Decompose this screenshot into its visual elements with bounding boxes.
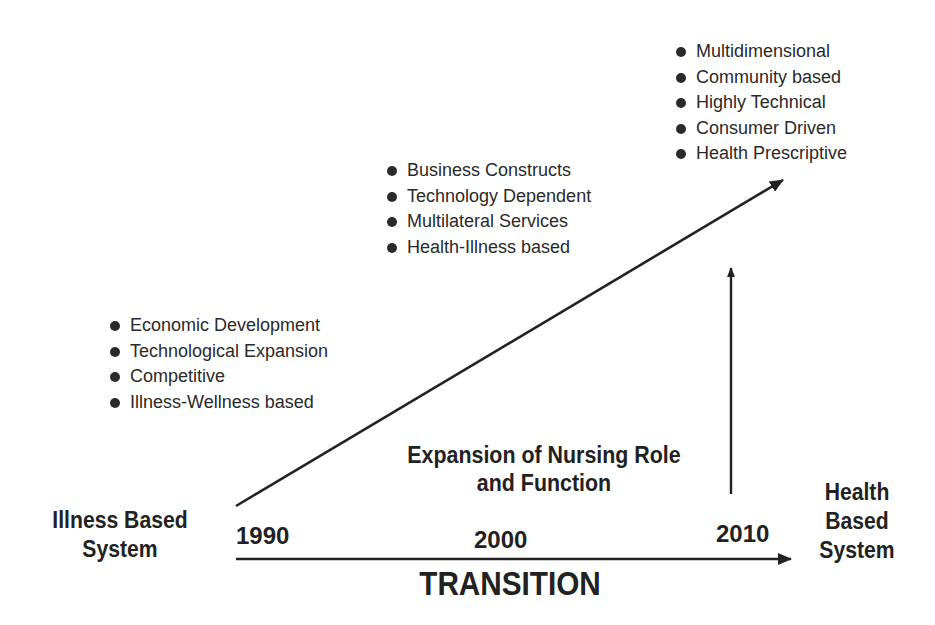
stage-2000-item: Multilateral Services <box>384 209 591 235</box>
start-label-line: System <box>30 535 210 564</box>
stage-2010-item: Multidimensional <box>673 39 847 65</box>
stage-1990-item: Technological Expansion <box>107 339 328 365</box>
stage-2010-item: Consumer Driven <box>673 116 847 142</box>
end-label-line: System <box>802 536 912 565</box>
stage-2000-list: Business Constructs Technology Dependent… <box>384 158 591 260</box>
stage-2010-list: Multidimensional Community based Highly … <box>673 39 847 167</box>
stage-1990-item: Competitive <box>107 364 328 390</box>
end-label: Health Based System <box>802 478 912 565</box>
stage-2000-item: Business Constructs <box>384 158 591 184</box>
stage-1990-item: Economic Development <box>107 313 328 339</box>
start-label-line: Illness Based <box>30 506 210 535</box>
stage-1990-item: Illness-Wellness based <box>107 390 328 416</box>
transition-label: TRANSITION <box>384 565 636 603</box>
stage-2010-item: Highly Technical <box>673 90 847 116</box>
year-2000: 2000 <box>474 526 527 554</box>
stage-2000-item: Technology Dependent <box>384 184 591 210</box>
stage-2010-item: Community based <box>673 65 847 91</box>
stage-2010-item: Health Prescriptive <box>673 141 847 167</box>
center-label-line: Expansion of Nursing Role <box>371 441 717 469</box>
year-1990: 1990 <box>236 522 289 550</box>
stage-2000-item: Health-Illness based <box>384 235 591 261</box>
year-2010: 2010 <box>716 520 769 548</box>
end-label-line: Health <box>802 478 912 507</box>
center-label-line: and Function <box>371 469 717 497</box>
start-label: Illness Based System <box>30 506 210 564</box>
center-label: Expansion of Nursing Role and Function <box>371 441 717 497</box>
end-label-line: Based <box>802 507 912 536</box>
stage-1990-list: Economic Development Technological Expan… <box>107 313 328 415</box>
